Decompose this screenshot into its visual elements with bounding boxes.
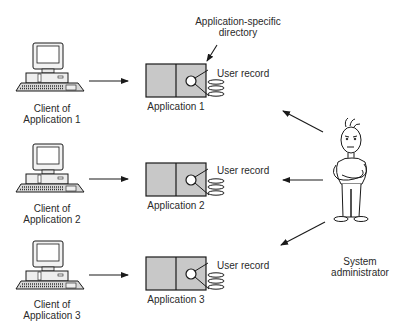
user-record-label-2: User record xyxy=(217,165,269,176)
client-label-3-line1: Client of xyxy=(12,299,92,310)
admin-label-line2: administrator xyxy=(320,267,400,278)
app-label-2: Application 2 xyxy=(136,200,216,211)
client-computer-2-icon xyxy=(16,144,84,192)
app-box-3-icon xyxy=(146,257,224,290)
annotation-label: Application-specific directory xyxy=(178,16,298,38)
annotation-line-1: Application-specific xyxy=(178,16,298,27)
user-record-label-1: User record xyxy=(217,68,269,79)
diagram-canvas xyxy=(0,0,401,329)
client-computer-1-icon xyxy=(16,43,84,91)
system-administrator-label: System administrator xyxy=(320,256,400,278)
admin-label-line1: System xyxy=(320,256,400,267)
arrow-admin-to-app-3 xyxy=(281,222,325,245)
app-box-1-icon xyxy=(146,64,224,97)
client-label-3: Client of Application 3 xyxy=(12,299,92,321)
client-label-3-line2: Application 3 xyxy=(12,310,92,321)
client-label-2-line1: Client of xyxy=(12,203,92,214)
client-label-1: Client of Application 1 xyxy=(12,103,92,125)
system-administrator-figure-icon xyxy=(333,118,368,222)
app-box-2-icon xyxy=(146,163,224,196)
app-label-3: Application 3 xyxy=(136,294,216,305)
arrow-admin-to-app-1 xyxy=(283,111,323,132)
client-computer-3-icon xyxy=(16,241,84,289)
app-label-1: Application 1 xyxy=(136,101,216,112)
client-label-1-line1: Client of xyxy=(12,103,92,114)
arrow-directory-annotation xyxy=(207,45,217,61)
client-label-2-line2: Application 2 xyxy=(12,214,92,225)
client-label-2: Client of Application 2 xyxy=(12,203,92,225)
user-record-label-3: User record xyxy=(217,260,269,271)
annotation-line-2: directory xyxy=(178,27,298,38)
client-label-1-line2: Application 1 xyxy=(12,114,92,125)
